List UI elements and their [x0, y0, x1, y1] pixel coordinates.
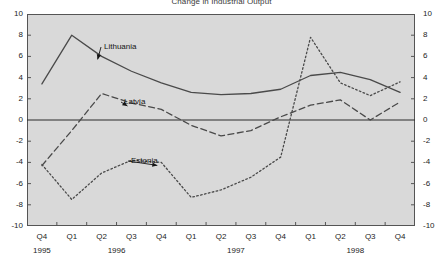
series-label-latvia: Latvia — [124, 98, 145, 106]
chart-root: Change in Industrial Output 1086420-2-4-… — [0, 0, 443, 260]
y-axis-right: 1086420-2-4-6-8-10 — [420, 0, 443, 260]
y-tick-label-left: 4 — [2, 74, 23, 82]
x-tick-label-quarter: Q4 — [146, 233, 176, 241]
x-tick-label-quarter: Q1 — [296, 233, 326, 241]
x-tick-label-quarter: Q3 — [116, 233, 146, 241]
x-tick-label-quarter: Q2 — [206, 233, 236, 241]
y-tick-label-right: -2 — [423, 137, 430, 145]
x-tick-label-quarter: Q4 — [385, 233, 415, 241]
y-tick-label-right: 4 — [423, 74, 427, 82]
y-tick-label-left: -10 — [2, 222, 23, 230]
x-tick-label-quarter: Q2 — [87, 233, 117, 241]
x-tick-label-year: 1996 — [97, 247, 137, 255]
x-tick-label-year: 1997 — [216, 247, 256, 255]
x-tick-label-quarter: Q1 — [176, 233, 206, 241]
y-tick-label-left: -8 — [2, 201, 23, 209]
y-tick-label-left: 8 — [2, 31, 23, 39]
y-tick-label-left: -6 — [2, 180, 23, 188]
y-tick-label-left: 2 — [2, 95, 23, 103]
y-tick-label-right: 6 — [423, 52, 427, 60]
x-tick-label-quarter: Q1 — [57, 233, 87, 241]
y-tick-label-right: 10 — [423, 10, 432, 18]
x-tick-label-year: 1998 — [335, 247, 375, 255]
y-tick-label-left: 0 — [2, 116, 23, 124]
x-tick-label-quarter: Q3 — [236, 233, 266, 241]
x-tick-label-quarter: Q2 — [325, 233, 355, 241]
y-tick-label-left: 10 — [2, 10, 23, 18]
plot-svg — [27, 14, 415, 226]
series-line-latvia — [42, 94, 400, 166]
y-tick-label-left: -4 — [2, 158, 23, 166]
y-tick-label-right: -6 — [423, 180, 430, 188]
y-tick-label-left: 6 — [2, 52, 23, 60]
y-tick-label-right: -10 — [423, 222, 435, 230]
y-tick-label-right: 2 — [423, 95, 427, 103]
x-tick-label-year: 1995 — [22, 247, 62, 255]
x-tick-label-quarter: Q4 — [27, 233, 57, 241]
y-tick-label-right: -8 — [423, 201, 430, 209]
x-tick-label-quarter: Q4 — [266, 233, 296, 241]
series-paths-group — [42, 35, 400, 199]
y-tick-label-right: -4 — [423, 158, 430, 166]
x-tick-label-quarter: Q3 — [355, 233, 385, 241]
y-tick-label-left: -2 — [2, 137, 23, 145]
chart-title: Change in Industrial Output — [0, 0, 443, 6]
y-axis-left: 1086420-2-4-6-8-10 — [0, 0, 23, 260]
series-label-lithuania: Lithuania — [104, 43, 136, 51]
tick-marks-group — [27, 35, 415, 226]
series-line-estonia — [42, 37, 400, 199]
y-tick-label-right: 8 — [423, 31, 427, 39]
y-tick-label-right: 0 — [423, 116, 427, 124]
series-label-estonia: Estonia — [131, 157, 158, 165]
